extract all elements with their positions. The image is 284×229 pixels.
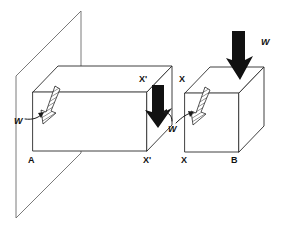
label-section-left-top: X' — [139, 74, 147, 84]
long-rectangular-block — [33, 66, 172, 151]
label-corner-b: B — [231, 155, 238, 165]
force-diagram-figure: A X' X B X' X W W W — [0, 0, 284, 229]
label-section-left-bottom: X' — [143, 155, 151, 165]
label-section-right-top: X — [179, 74, 185, 84]
label-load-middle: W — [168, 124, 178, 134]
label-section-right-bottom: X — [181, 155, 187, 165]
figure-canvas: A X' X B X' X W W W — [0, 0, 284, 229]
label-load-right: W — [261, 37, 271, 47]
label-corner-a: A — [28, 155, 35, 165]
